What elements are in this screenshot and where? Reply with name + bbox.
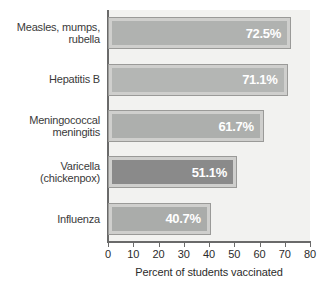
x-tick-label-80: 80 (297, 248, 323, 260)
bar-4: 40.7% (108, 203, 211, 235)
x-tick-40 (209, 243, 210, 247)
bar-chart: Measles, mumps, rubella Hepatitis B Meni… (0, 0, 329, 288)
category-label-measles-mumps-rubella: Measles, mumps, rubella (0, 21, 100, 46)
x-tick-label-10: 10 (120, 248, 146, 260)
x-tick-label-40: 40 (196, 248, 222, 260)
x-tick-label-30: 30 (171, 248, 197, 260)
category-label-line1: Influenza (0, 213, 100, 226)
category-label-line2: rubella (0, 33, 100, 46)
bar-3: 51.1% (108, 156, 237, 188)
x-tick-10 (133, 243, 134, 247)
category-label-line1: Hepatitis B (0, 73, 100, 86)
bar-value-label-1: 71.1% (242, 72, 283, 87)
x-tick-30 (184, 243, 185, 247)
category-label-hepatitis-b: Hepatitis B (0, 73, 100, 86)
bar-2: 61.7% (108, 110, 264, 142)
category-label-line2: meningitis (0, 126, 100, 139)
bar-fill-4: 40.7% (112, 207, 207, 231)
bar-fill-0: 72.5% (112, 21, 287, 45)
x-tick-label-60: 60 (247, 248, 273, 260)
category-label-line2: (chickenpox) (0, 172, 100, 185)
x-tick-label-50: 50 (221, 248, 247, 260)
bar-0: 72.5% (108, 17, 291, 49)
bar-value-label-4: 40.7% (165, 211, 206, 226)
x-tick-70 (285, 243, 286, 247)
category-label-meningococcal-meningitis: Meningococcal meningitis (0, 114, 100, 139)
category-label-line1: Meningococcal (0, 114, 100, 127)
category-label-line1: Measles, mumps, (0, 21, 100, 34)
x-tick-50 (234, 243, 235, 247)
x-tick-label-70: 70 (272, 248, 298, 260)
bar-value-label-3: 51.1% (192, 165, 233, 180)
bar-fill-3: 51.1% (112, 160, 233, 184)
category-label-influenza: Influenza (0, 213, 100, 226)
bar-1: 71.1% (108, 64, 288, 96)
x-tick-60 (260, 243, 261, 247)
x-tick-label-20: 20 (146, 248, 172, 260)
bar-value-label-0: 72.5% (246, 26, 287, 41)
bar-value-label-2: 61.7% (218, 119, 259, 134)
bar-fill-1: 71.1% (112, 68, 284, 92)
x-axis-title: Percent of students vaccinated (108, 266, 310, 278)
x-tick-80 (310, 243, 311, 247)
x-tick-label-0: 0 (95, 248, 121, 260)
x-tick-0 (108, 243, 109, 247)
bar-fill-2: 61.7% (112, 114, 260, 138)
category-label-varicella-chickenpox: Varicella (chickenpox) (0, 160, 100, 185)
x-tick-20 (159, 243, 160, 247)
category-label-line1: Varicella (0, 160, 100, 173)
